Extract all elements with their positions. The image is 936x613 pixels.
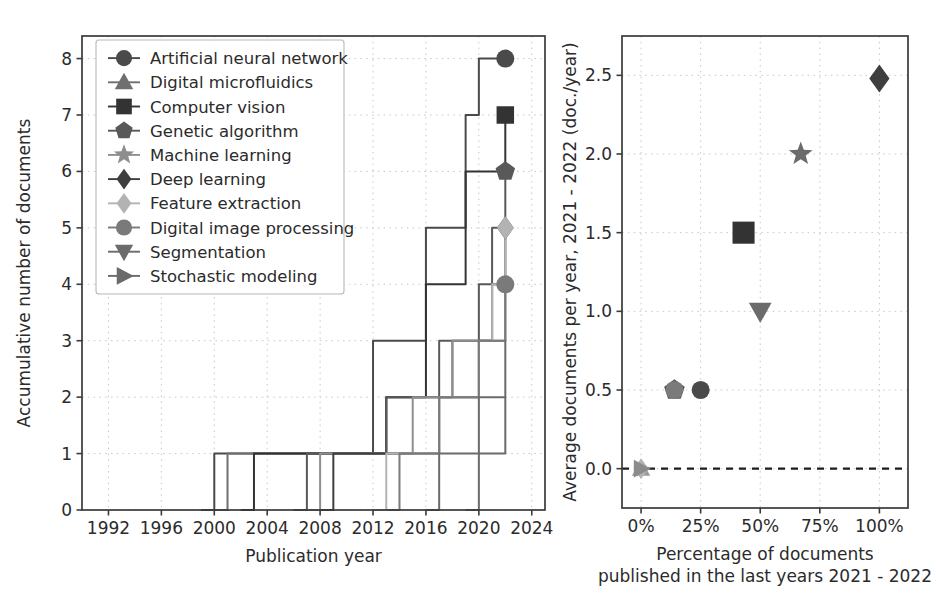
right-ticklabels: 0%25%50%75%100%0.00.51.01.52.02.5 <box>585 65 904 536</box>
left-xticklabel: 2000 <box>193 518 236 538</box>
legend-label: Stochastic modeling <box>150 267 318 286</box>
right-yticklabel: 0.5 <box>585 380 612 400</box>
left-yticklabel: 3 <box>61 331 72 351</box>
left-xticklabel: 2016 <box>404 518 447 538</box>
series-step-line <box>320 228 505 510</box>
left-yticklabel: 4 <box>61 274 72 294</box>
right-xaxis-label-line1: Percentage of documents <box>656 544 874 564</box>
series-endpoint-marker <box>497 216 514 239</box>
legend-label: Digital microfluidics <box>150 73 313 92</box>
left-xticklabel: 2024 <box>510 518 553 538</box>
two-panel-figure: 1992199620002004200820122016202020240123… <box>0 0 936 613</box>
left-yticklabel: 7 <box>61 105 72 125</box>
series-endpoint-marker <box>496 275 514 293</box>
series-endpoint-marker <box>497 106 514 123</box>
left-xticklabel: 2004 <box>246 518 289 538</box>
scatter-point-triangle-down <box>749 303 772 323</box>
right-xaxis-label-line2: published in the last years 2021 - 2022 <box>598 566 932 586</box>
scatter-point-star <box>789 142 813 165</box>
right-gridlines <box>622 36 908 508</box>
series-step-line <box>426 341 505 510</box>
left-yticklabel: 1 <box>61 444 72 464</box>
left-xticklabel: 2012 <box>351 518 394 538</box>
right-yticklabel: 2.5 <box>585 65 612 85</box>
legend-label: Genetic algorithm <box>150 122 299 141</box>
legend-circle-icon <box>116 50 132 66</box>
legend-label: Machine learning <box>150 146 292 165</box>
scatter-point-diamond <box>869 64 889 92</box>
scatter-point-circle <box>692 381 710 399</box>
left-yticklabel: 5 <box>61 218 72 238</box>
right-xticklabel: 0% <box>628 516 655 536</box>
left-yticklabel: 8 <box>61 49 72 69</box>
right-yticklabel: 1.0 <box>585 301 612 321</box>
right-xticklabel: 75% <box>801 516 839 536</box>
left-xticklabel: 2008 <box>298 518 341 538</box>
legend-label: Digital image processing <box>150 219 354 238</box>
scatter-point-square <box>733 222 755 244</box>
left-yaxis-label: Accumulative number of documents <box>14 118 34 427</box>
legend-circle-icon <box>116 219 132 235</box>
figure-canvas: 1992199620002004200820122016202020240123… <box>0 0 936 613</box>
right-yaxis-label: Average documents per year, 2021 - 2022 … <box>560 42 580 501</box>
legend-square-icon <box>116 99 132 115</box>
series-legend: Artificial neural networkDigital microfl… <box>96 40 354 294</box>
legend-label: Artificial neural network <box>150 49 348 68</box>
right-axes: 0%25%50%75%100%0.00.51.01.52.02.5 Percen… <box>560 36 932 586</box>
right-xticklabel: 25% <box>682 516 720 536</box>
series-endpoint-marker <box>496 161 516 180</box>
right-yticklabel: 2.0 <box>585 144 612 164</box>
right-xticklabel: 50% <box>741 516 779 536</box>
right-yticklabel: 1.5 <box>585 223 612 243</box>
legend-label: Segmentation <box>150 243 266 262</box>
scatter-point-circle <box>665 381 683 399</box>
left-xaxis-label: Publication year <box>245 546 382 566</box>
scatter-points <box>632 64 890 479</box>
right-tickmarks <box>617 75 880 513</box>
left-axes: 1992199620002004200820122016202020240123… <box>14 36 553 566</box>
right-plot-frame <box>622 36 908 508</box>
left-xticklabel: 2020 <box>457 518 500 538</box>
left-yticklabel: 2 <box>61 387 72 407</box>
right-xticklabel: 100% <box>855 516 904 536</box>
left-yticklabel: 0 <box>61 500 72 520</box>
legend-label: Feature extraction <box>150 194 301 213</box>
legend-label: Computer vision <box>150 98 285 117</box>
legend-label: Deep learning <box>150 170 266 189</box>
left-xticklabel: 1996 <box>140 518 183 538</box>
series-endpoint-marker <box>496 50 514 68</box>
left-xticklabel: 1992 <box>87 518 130 538</box>
right-yticklabel: 0.0 <box>585 459 612 479</box>
left-yticklabel: 6 <box>61 161 72 181</box>
